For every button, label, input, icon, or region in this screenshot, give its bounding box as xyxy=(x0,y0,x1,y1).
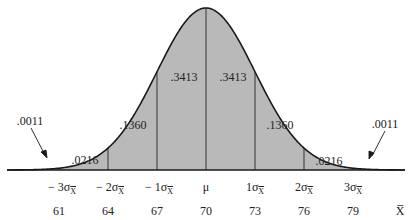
mu-label: μ xyxy=(203,180,209,195)
x-value: 79 xyxy=(347,204,359,219)
x-value: 64 xyxy=(102,204,114,219)
sigma-divider-lines xyxy=(59,8,353,170)
area-label-m2-m1: .1360 xyxy=(120,118,147,133)
sigma-label: 2σX xyxy=(295,180,313,196)
x-value: 70 xyxy=(200,204,212,219)
area-label-p1-p2: .1360 xyxy=(267,118,294,133)
area-label-left-tail: .0011 xyxy=(17,114,44,129)
x-value: 67 xyxy=(151,204,163,219)
sigma-label: 1σX xyxy=(246,180,264,196)
sigma-label: − 2σX xyxy=(96,180,124,196)
area-label-right-tail: .0011 xyxy=(372,117,399,132)
sigma-label: − 3σX xyxy=(48,180,76,196)
area-label-m3-m2: .0216 xyxy=(72,153,99,168)
area-label-p2-p3: .0216 xyxy=(316,154,343,169)
x-value: 73 xyxy=(249,204,261,219)
x-value: 76 xyxy=(298,204,310,219)
area-label-mu-p1: .3413 xyxy=(220,70,247,85)
x-value: 61 xyxy=(53,204,65,219)
sigma-label: − 1σX xyxy=(145,180,173,196)
sigma-label: 3σX xyxy=(344,180,362,196)
area-label-m1-mu: .3413 xyxy=(171,70,198,85)
x-axis-label: X̅ xyxy=(396,204,405,219)
